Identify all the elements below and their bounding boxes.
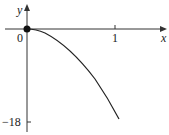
origin-point <box>24 26 31 33</box>
data-curve <box>27 29 119 119</box>
y-axis-arrow-icon <box>24 4 30 11</box>
origin-label: 0 <box>17 32 23 44</box>
y-axis-label: y <box>17 4 22 16</box>
x-axis-label: x <box>161 32 166 44</box>
y-tick-label-min: −18 <box>2 116 21 128</box>
x-tick-label-1: 1 <box>112 32 118 44</box>
chart-canvas <box>0 0 169 135</box>
